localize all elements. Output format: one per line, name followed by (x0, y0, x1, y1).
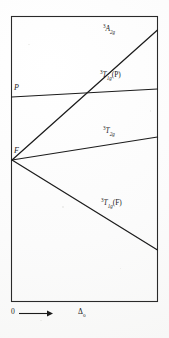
free-ion-term-f: F (14, 147, 19, 155)
series-label-3a2g: 3A2g (103, 24, 115, 35)
series-label-suffix: (F) (113, 198, 122, 207)
x-axis-label: Δo (78, 308, 85, 318)
plot-frame (12, 17, 158, 302)
axis-origin-label: 0 (11, 308, 15, 316)
free-ion-term-p: P (14, 84, 19, 92)
diagram-canvas (0, 0, 169, 338)
series-label-3t1g-p: 3T1g(P) (100, 70, 121, 81)
right-arrow-icon (47, 310, 53, 316)
x-axis-label-subscript: o (83, 312, 86, 318)
series-label-3t1g-f: 3T1g(F) (101, 198, 122, 209)
orgel-diagram-figure: P F 3A2g 3T1g(P) 3T2g 3T1g(F) 0 Δo (0, 0, 169, 338)
series-label-3t2g: 3T2g (103, 126, 115, 137)
series-line-3t1g-f (12, 160, 158, 250)
series-label-suffix: (P) (112, 70, 121, 79)
series-label-subscript: 2g (110, 29, 115, 35)
series-label-subscript: 2g (110, 131, 115, 137)
